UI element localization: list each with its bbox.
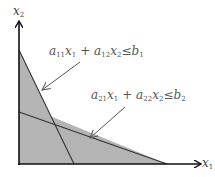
pointer-arrow-2	[90, 107, 125, 138]
constraint-2-label: a21x1 + a22x2≤b2	[91, 89, 186, 103]
constraint-1-label: a11x1 + a12x2≤b1	[49, 45, 144, 59]
x1-axis-label: x1	[202, 157, 213, 171]
pointer-arrow-1	[42, 62, 80, 90]
x2-axis-label: x2	[13, 5, 24, 19]
